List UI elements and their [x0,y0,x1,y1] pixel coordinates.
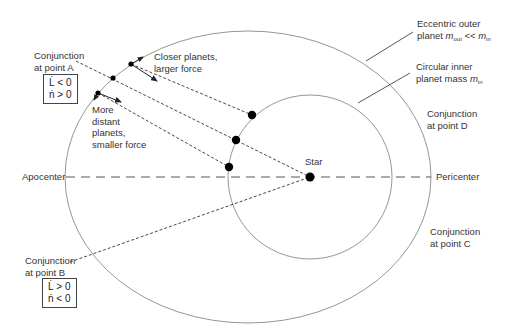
box-b-n: ṅ < 0 [48,293,71,305]
outer-planet-distant [95,90,100,95]
box-a: L̇ < 0 ṅ > 0 [43,74,78,104]
distant-force-arrow [98,93,121,102]
outer-planet-a [110,75,115,80]
conjunction-a-label: Conjunctionat point A [34,50,84,73]
inner-planet-label: Circular inner planet mass min [416,61,482,88]
outer-planet-label: Eccentric outer planet mout << min [417,18,491,45]
inner-planet-closer [248,111,256,119]
pericenter-label: Pericenter [436,171,479,183]
conjunction-line-b [70,177,310,262]
conjunction-c-label: Conjunctionat point C [430,226,480,249]
inner-planet-distant [225,163,233,171]
box-a-n: ṅ > 0 [49,89,72,101]
apocenter-label: Apocenter [22,171,65,183]
conjunction-b-label: Conjunctionat point B [25,255,75,278]
conjunction-d-label: Conjunctionat point D [427,108,477,131]
outer-planet-closer [128,61,133,66]
closer-planets-label: Closer planets,larger force [154,51,217,74]
box-b-l: L̇ > 0 [48,281,71,293]
distant-planets-label: Moredistant planets,smaller force [92,104,146,150]
inner-planet-a [232,136,240,144]
box-b: L̇ > 0 ṅ < 0 [42,278,77,308]
star-label: Star [305,156,322,168]
outer-planet-leader [366,32,413,61]
star [306,173,315,182]
box-a-l: L̇ < 0 [49,77,72,89]
